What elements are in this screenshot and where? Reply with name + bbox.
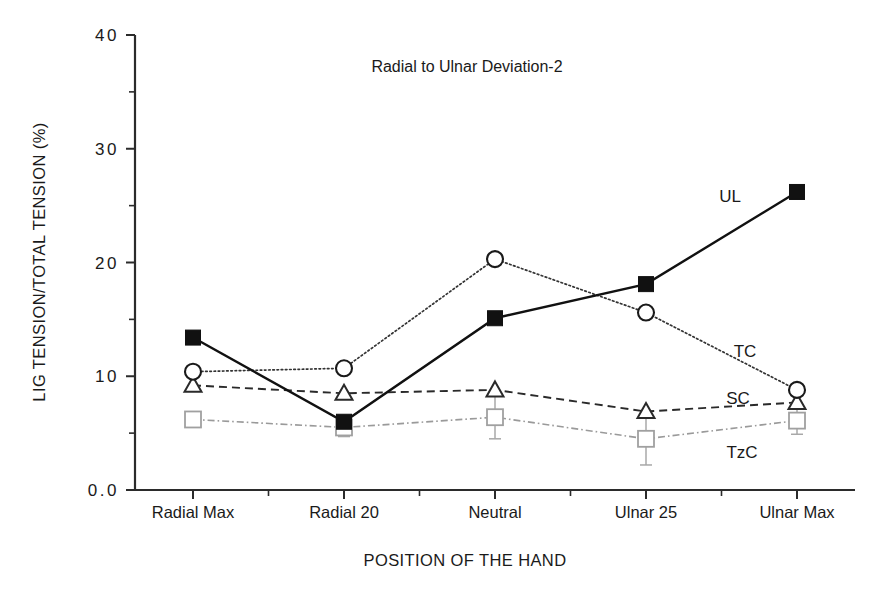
series-tzc [185, 396, 805, 465]
x-tick-label: Ulnar 25 [615, 503, 677, 521]
marker-filled-square [337, 414, 352, 429]
x-tick-label: Radial Max [152, 503, 235, 521]
marker-open-square [789, 413, 805, 429]
chart-title: Radial to Ulnar Deviation-2 [371, 58, 562, 75]
series-label-tc: TC [734, 342, 757, 361]
marker-open-square [487, 409, 503, 425]
y-tick-label: 10 [95, 367, 119, 386]
series-label-sc: SC [726, 389, 750, 408]
x-tick-label: Radial 20 [309, 503, 379, 521]
figure-root: Radial to Ulnar Deviation-2 LIG TENSION/… [0, 0, 887, 589]
y-tick-label: 20 [95, 254, 119, 273]
series-label-tzc: TzC [726, 443, 757, 462]
y-axis: 0.010203040 [88, 26, 135, 500]
x-tick-label: Neutral [468, 503, 521, 521]
marker-filled-square [790, 184, 805, 199]
line-chart: Radial to Ulnar Deviation-2 LIG TENSION/… [0, 0, 887, 589]
marker-open-circle [638, 305, 654, 321]
y-axis-title: LIG TENSION/TOTAL TENSION (%) [30, 122, 48, 401]
marker-open-circle [487, 251, 503, 267]
marker-filled-square [186, 330, 201, 345]
x-axis: Radial MaxRadial 20NeutralUlnar 25Ulnar … [135, 490, 855, 521]
series-label-ul: UL [719, 187, 741, 206]
marker-open-square [638, 431, 654, 447]
marker-open-square [185, 411, 201, 427]
series-layer [185, 184, 806, 465]
y-tick-label: 30 [95, 140, 119, 159]
y-tick-label: 40 [95, 26, 119, 45]
y-tick-label: 0.0 [88, 481, 119, 500]
marker-open-circle [336, 360, 352, 376]
marker-filled-square [639, 277, 654, 292]
marker-open-circle [185, 364, 201, 380]
x-axis-title: POSITION OF THE HAND [364, 551, 567, 569]
marker-open-circle [789, 382, 805, 398]
marker-open-triangle [487, 381, 504, 396]
marker-filled-square [488, 311, 503, 326]
x-tick-label: Ulnar Max [759, 503, 835, 521]
